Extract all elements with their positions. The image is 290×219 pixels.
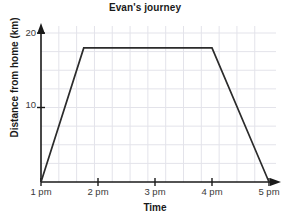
x-axis-arrow-icon	[270, 178, 281, 186]
chart-svg	[0, 0, 290, 219]
chart-container: Evan's journey Distance from home (km) T…	[0, 0, 290, 219]
gridlines	[41, 26, 276, 182]
data-series-line	[41, 48, 269, 182]
